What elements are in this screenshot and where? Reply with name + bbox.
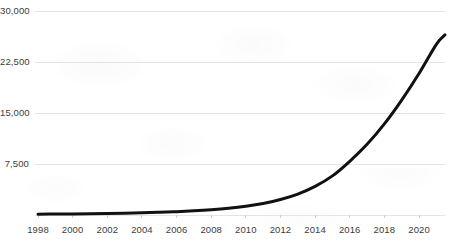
x-axis-tick-label: 2020 — [408, 224, 430, 235]
exponential-growth-chart: 30,00022,50015,0007,500 1998200020022004… — [0, 0, 454, 248]
x-axis-tick-label: 2008 — [200, 224, 222, 235]
x-axis-tick-label: 2000 — [62, 224, 84, 235]
x-axis-tick-label: 2004 — [131, 224, 153, 235]
x-axis-labels: 1998200020022004200620082010201220142016… — [0, 0, 454, 248]
x-axis-tick-label: 1998 — [27, 224, 49, 235]
x-axis-tick-label: 2006 — [166, 224, 188, 235]
x-axis-tick-label: 2014 — [304, 224, 326, 235]
x-axis-tick-label: 2012 — [270, 224, 292, 235]
x-axis-tick-label: 2010 — [235, 224, 257, 235]
x-axis-tick-label: 2002 — [96, 224, 118, 235]
x-axis-tick-label: 2018 — [374, 224, 396, 235]
x-axis-tick-label: 2016 — [339, 224, 361, 235]
